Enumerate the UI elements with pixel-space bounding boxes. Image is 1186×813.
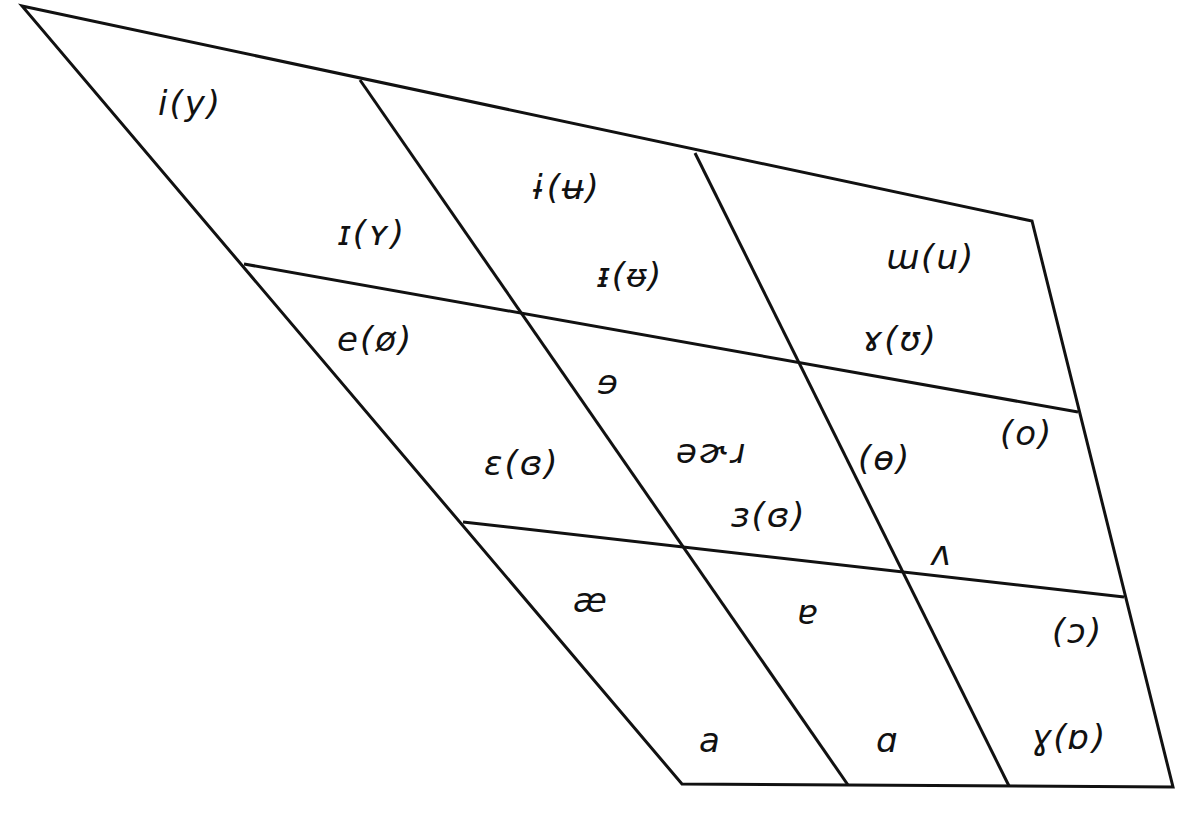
vowel-chart: i(y)ɪ(ʏ)ɨ(ʉ)ᵻ(ᵿ)ɯ(u)ɤ(ʊ)e(ø)ɘəɚɹɛ(ɞ)ɜ(ɞ)… bbox=[0, 0, 1186, 813]
vowel-label-near-close-front: ɪ(ʏ) bbox=[338, 216, 406, 250]
vowel-label-close-mid-back: (ɵ) bbox=[858, 441, 911, 475]
vowel-label-close-mid-front: e(ø) bbox=[337, 322, 413, 356]
vowel-label-open-back-rounded: (ɔ) bbox=[1052, 614, 1103, 648]
vowel-label-near-close-central: ᵻ(ᵿ) bbox=[597, 258, 663, 292]
vowel-label-open-back: ɣ(ɒ) bbox=[1031, 720, 1107, 754]
vowel-label-mid-central: əɚɹ bbox=[676, 434, 748, 468]
vowel-label-mid-back: (o) bbox=[1000, 416, 1053, 450]
vowel-label-open-mid-front: ɛ(ɞ) bbox=[484, 446, 560, 480]
vowel-label-near-open-central: ɐ bbox=[797, 595, 820, 629]
vowel-label-close-back: ɯ(u) bbox=[886, 240, 975, 274]
vowel-label-open-mid-back: ʌ bbox=[931, 536, 953, 570]
vowel-label-open-mid-central: ɜ(ɞ) bbox=[731, 498, 807, 532]
vowel-label-close-mid-central: ɘ bbox=[597, 365, 620, 399]
vowel-label-near-open-front: æ bbox=[573, 583, 609, 617]
vowel-label-close-front: i(y) bbox=[158, 86, 222, 120]
front-central-divider-line bbox=[360, 80, 848, 785]
vowel-label-near-close-back: ɤ(ʊ) bbox=[862, 322, 938, 356]
vowel-label-close-central: ɨ(ʉ) bbox=[532, 170, 601, 204]
vowel-label-open-front: a bbox=[699, 723, 722, 757]
vowel-label-open-central: ɑ bbox=[876, 723, 900, 757]
